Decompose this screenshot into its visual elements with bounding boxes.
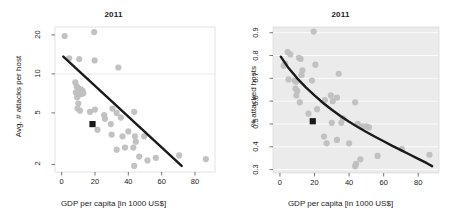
data-point <box>287 51 293 57</box>
y-tick-label: 20 <box>33 21 42 47</box>
data-point <box>176 152 182 158</box>
y-tick-label: 5 <box>33 99 42 125</box>
data-point <box>77 108 83 114</box>
data-point <box>91 29 97 35</box>
x-tick-label: 20 <box>81 177 109 186</box>
data-point <box>130 144 136 150</box>
data-point <box>334 137 340 143</box>
data-point <box>122 144 128 150</box>
y-tick-label: 0.4 <box>251 133 260 159</box>
data-point <box>366 124 372 130</box>
y-tick-label: 2 <box>33 151 42 177</box>
data-point <box>352 163 358 169</box>
data-point <box>92 57 98 63</box>
highlight-marker <box>310 118 316 124</box>
highlight-marker <box>89 121 95 127</box>
data-point <box>144 157 150 163</box>
data-point <box>118 115 124 121</box>
data-point <box>311 28 317 34</box>
data-point <box>62 33 68 39</box>
x-tick-label: 40 <box>335 178 363 187</box>
data-point <box>357 156 363 162</box>
data-point <box>285 76 291 82</box>
data-point <box>92 107 98 113</box>
data-point <box>330 98 336 104</box>
data-point <box>328 92 334 98</box>
data-point <box>203 156 209 162</box>
y-tick-label: 0.3 <box>251 156 260 182</box>
data-point <box>309 78 315 84</box>
data-point <box>298 72 304 78</box>
data-point <box>153 155 159 161</box>
x-tick-label: 40 <box>114 177 142 186</box>
x-tick-label: 80 <box>181 177 209 186</box>
data-point <box>136 154 142 160</box>
scatter-plot-right <box>227 0 454 220</box>
chart-panel-left: 2011 Avg. # attacks per host GDP per cap… <box>0 0 227 220</box>
data-point <box>133 139 139 145</box>
data-point <box>109 132 115 138</box>
data-point <box>131 163 137 169</box>
data-point <box>352 99 358 105</box>
data-point <box>76 56 82 62</box>
x-tick-label: 80 <box>404 178 432 187</box>
data-point <box>119 133 125 139</box>
data-point <box>314 106 320 112</box>
data-point <box>125 128 131 134</box>
y-tick-label: 0.6 <box>251 88 260 114</box>
data-point <box>321 133 327 139</box>
y-tick-label: 10 <box>33 60 42 86</box>
data-point <box>293 92 299 98</box>
x-axis-title-right: GDP per capita [in 1000 US$] <box>227 199 454 208</box>
data-point <box>132 133 138 139</box>
data-point <box>80 90 86 96</box>
data-point <box>375 153 381 159</box>
data-point <box>324 140 330 146</box>
x-tick-label: 20 <box>301 178 329 187</box>
data-point <box>114 110 120 116</box>
data-point <box>108 121 114 127</box>
data-point <box>115 64 121 70</box>
y-tick-label: 0.7 <box>251 65 260 91</box>
x-axis-title-left: GDP per capita [in 1000 US$] <box>0 199 227 208</box>
y-tick-label: 0.8 <box>251 42 260 68</box>
data-point <box>426 152 432 158</box>
chart-panel-right: 2011 % attacked hosts GDP per capita [in… <box>227 0 454 220</box>
data-point <box>94 127 100 133</box>
x-tick-label: 0 <box>266 178 294 187</box>
data-point <box>346 140 352 146</box>
data-point <box>312 62 318 68</box>
data-point <box>131 109 137 115</box>
data-point <box>338 120 344 126</box>
figure-container: 2011 Avg. # attacks per host GDP per cap… <box>0 0 454 220</box>
x-tick-label: 0 <box>48 177 76 186</box>
data-point <box>298 56 304 62</box>
data-point <box>101 112 107 118</box>
data-point <box>305 111 311 117</box>
data-point <box>336 71 342 77</box>
data-point <box>297 99 303 105</box>
y-tick-label: 0.5 <box>251 110 260 136</box>
x-tick-label: 60 <box>370 178 398 187</box>
data-point <box>329 120 335 126</box>
data-point <box>114 147 120 153</box>
y-tick-label: 0.9 <box>251 19 260 45</box>
x-tick-label: 60 <box>148 177 176 186</box>
